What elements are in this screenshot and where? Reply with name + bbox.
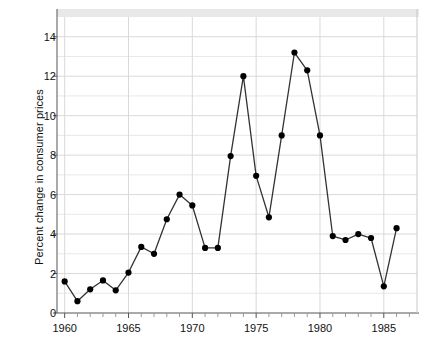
data-point	[266, 214, 272, 220]
plot-area	[0, 0, 445, 354]
y-axis-tick-label: 4	[34, 228, 56, 240]
data-point	[393, 225, 399, 231]
plot-background	[57, 17, 417, 313]
data-point	[317, 132, 323, 138]
data-point	[253, 173, 259, 179]
data-point	[215, 245, 221, 251]
y-axis-tick-label: 10	[34, 110, 56, 122]
data-point	[189, 202, 195, 208]
y-axis-tick-label: 0	[34, 307, 56, 319]
data-point	[125, 269, 131, 275]
data-point	[381, 283, 387, 289]
y-axis-tick-labels: 02468101214	[32, 0, 56, 354]
x-axis-tick-label: 1980	[308, 322, 332, 334]
data-point	[228, 153, 234, 159]
x-axis-tick-label: 1960	[52, 322, 76, 334]
data-point	[202, 245, 208, 251]
data-point	[62, 278, 68, 284]
y-axis-tick-label: 12	[34, 70, 56, 82]
y-axis-tick-label: 2	[34, 268, 56, 280]
x-axis-tick-label: 1975	[244, 322, 268, 334]
y-axis-tick-label: 6	[34, 189, 56, 201]
data-point	[74, 298, 80, 304]
chart-container: Percent change in consumer prices 024681…	[0, 0, 445, 354]
data-point	[342, 237, 348, 243]
y-axis-tick-label: 8	[34, 149, 56, 161]
data-point	[164, 216, 170, 222]
data-point	[355, 231, 361, 237]
data-point	[138, 244, 144, 250]
data-point	[279, 132, 285, 138]
data-point	[176, 192, 182, 198]
plot-top-band	[57, 9, 419, 17]
x-axis-tick-labels: 196019651970197519801985	[0, 322, 445, 338]
x-axis-tick-label: 1985	[372, 322, 396, 334]
data-point	[240, 73, 246, 79]
data-point	[304, 67, 310, 73]
x-axis-tick-label: 1965	[116, 322, 140, 334]
data-point	[151, 251, 157, 257]
data-point	[291, 49, 297, 55]
y-axis-tick-label: 14	[34, 31, 56, 43]
data-point	[87, 286, 93, 292]
x-axis-ticks	[65, 313, 410, 318]
data-point	[330, 233, 336, 239]
x-axis-tick-label: 1970	[180, 322, 204, 334]
data-point	[113, 287, 119, 293]
data-point	[368, 235, 374, 241]
data-point	[100, 277, 106, 283]
